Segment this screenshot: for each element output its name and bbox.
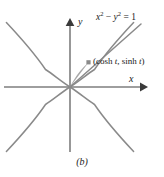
point-label-comma: , sinh	[117, 56, 139, 66]
y-axis-arrowhead	[66, 18, 75, 26]
figure-caption: (b)	[0, 157, 164, 167]
x-axis-label: x	[129, 74, 133, 84]
hyperbola-figure: y x x2 − y2 = 1 (cosh t, sinh t) (b)	[0, 0, 164, 177]
x-axis-arrowhead	[140, 83, 148, 92]
point-label-open: (cosh	[93, 56, 115, 66]
hyperbolic-sector-shading	[70, 63, 89, 88]
equation-label: x2 − y2 = 1	[96, 13, 136, 23]
point-coordinate-label: (cosh t, sinh t)	[93, 57, 145, 66]
point-label-close: )	[142, 56, 145, 66]
point-marker	[86, 60, 90, 64]
equation-equals: = 1	[121, 12, 136, 22]
y-axis-label: y	[78, 17, 82, 27]
equation-minus: −	[103, 12, 113, 22]
